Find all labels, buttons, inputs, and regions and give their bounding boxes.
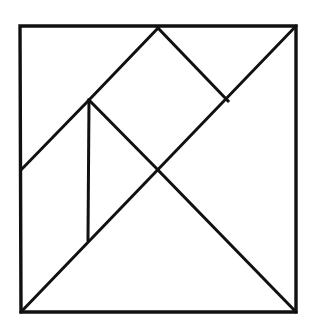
tangram-svg [0, 0, 314, 333]
vertical-divider-line [88, 100, 89, 240]
tangram-figure [0, 0, 314, 333]
